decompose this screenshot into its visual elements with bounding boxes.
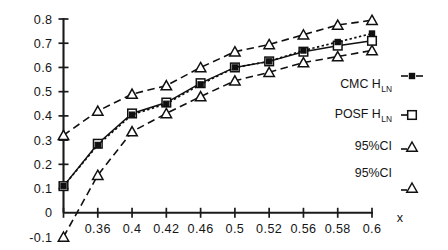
data-point-marker: [161, 81, 171, 90]
x-axis-tick-label: 0.6: [363, 222, 382, 236]
data-point-marker: [58, 130, 68, 139]
y-axis-tick-label: 0.5: [34, 85, 53, 99]
legend-item: 95%CI: [355, 139, 417, 153]
x-axis-tick-label: 0.4: [123, 222, 142, 236]
legend-item-label: 95%CI: [355, 166, 392, 180]
legend-item-label: 95%CI: [355, 139, 392, 153]
x-axis-tick-label: 0.56: [290, 222, 316, 236]
legend-item-label: POSF HLN: [335, 107, 392, 124]
data-point-marker: [129, 112, 134, 117]
data-point-marker: [93, 106, 103, 115]
legend-key-marker: [409, 73, 414, 78]
data-point-marker: [127, 89, 137, 98]
data-series-group: [58, 15, 377, 241]
data-point-marker: [367, 45, 377, 54]
x-axis-tick-label: 0.46: [188, 222, 214, 236]
data-point-marker: [301, 48, 306, 53]
legend-item: CMC HLN: [340, 73, 423, 93]
data-point-marker: [367, 15, 377, 24]
data-point-marker: [61, 184, 66, 189]
legend-key-marker: [407, 142, 417, 151]
y-axis-tick-label: 0.1: [34, 182, 53, 196]
series-95-ci-upper: [58, 15, 377, 139]
data-point-marker: [95, 142, 100, 147]
x-axis-tick-label: 0.58: [325, 222, 351, 236]
line-chart-plot: 0.80.70.60.50.40.30.20.10-0.1 0.360.40.4…: [0, 0, 448, 250]
data-point-marker: [232, 65, 237, 70]
series-line: [64, 20, 373, 135]
y-axis-tick-label: 0.8: [34, 13, 53, 27]
y-axis-tick-label: 0.2: [34, 158, 53, 172]
data-point-marker: [335, 39, 340, 44]
y-axis-tick-label: 0.4: [34, 109, 53, 123]
y-axis-tick-label: 0.3: [34, 134, 53, 148]
x-axis-tick-label: 0.36: [85, 222, 111, 236]
series-cmc-h-ln: [61, 31, 375, 189]
series-line: [64, 34, 373, 187]
chart-legend: CMC HLNPOSF HLN95%CI95%CI: [335, 73, 423, 192]
x-axis: 0.360.40.420.460.50.520.560.580.6x: [64, 208, 404, 236]
data-point-marker: [368, 37, 377, 46]
x-axis-title: x: [397, 211, 404, 225]
legend-item: POSF HLN: [335, 107, 417, 124]
chart-container: 0.80.70.60.50.40.30.20.10-0.1 0.360.40.4…: [0, 0, 448, 250]
series-line: [64, 41, 373, 186]
y-axis-tick-label: -0.1: [29, 231, 52, 245]
data-point-marker: [127, 127, 137, 136]
data-point-marker: [198, 82, 203, 87]
y-axis-tick-label: 0: [45, 206, 52, 220]
data-point-marker: [161, 108, 171, 117]
x-axis-tick-label: 0.52: [256, 222, 282, 236]
y-axis-tick-label: 0.7: [34, 37, 53, 51]
legend-item: 95%CI: [355, 166, 417, 192]
data-point-marker: [195, 92, 205, 101]
data-point-marker: [195, 62, 205, 71]
x-axis-tick-label: 0.42: [153, 222, 179, 236]
data-point-marker: [267, 59, 272, 64]
legend-key-marker: [408, 111, 417, 120]
y-axis: 0.80.70.60.50.40.30.20.10-0.1: [29, 13, 68, 245]
legend-key-marker: [407, 183, 417, 192]
series-line: [64, 50, 373, 237]
data-point-marker: [58, 232, 68, 241]
y-axis-tick-label: 0.6: [34, 61, 53, 75]
legend-item-label: CMC HLN: [340, 77, 392, 94]
x-axis-tick-label: 0.5: [226, 222, 245, 236]
legend-item-sublabel: LN: [381, 84, 392, 94]
legend-item-sublabel: LN: [381, 114, 392, 124]
data-point-marker: [164, 101, 169, 106]
data-point-marker: [369, 31, 374, 36]
